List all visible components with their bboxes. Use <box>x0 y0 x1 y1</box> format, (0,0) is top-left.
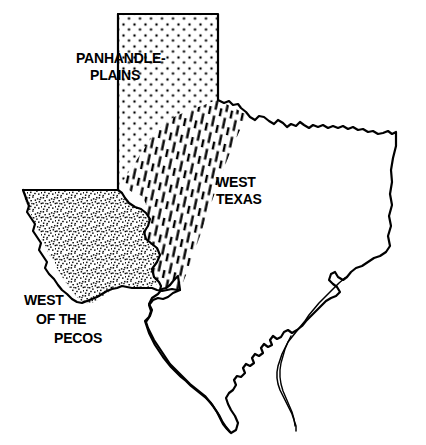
label-west-texas: WEST TEXAS <box>216 174 262 207</box>
label-west-texas-line2: TEXAS <box>216 191 262 207</box>
label-west-of-the-pecos-line1: WEST <box>24 292 64 308</box>
label-west-texas-line1: WEST <box>216 174 256 190</box>
texas-regions-map: PANHANDLE- PLAINS WEST TEXAS WEST OF THE… <box>0 0 426 445</box>
label-panhandle-plains-line1: PANHANDLE- <box>76 50 166 66</box>
label-west-of-the-pecos-line2: OF THE <box>36 311 86 327</box>
label-panhandle-plains-line2: PLAINS <box>90 67 140 83</box>
texas-map-svg: PANHANDLE- PLAINS WEST TEXAS WEST OF THE… <box>0 0 426 445</box>
label-west-of-the-pecos-line3: PECOS <box>54 330 102 346</box>
